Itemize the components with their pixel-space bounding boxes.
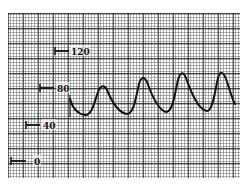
- grid-paper: [8, 13, 240, 178]
- scale-label-120: 120: [71, 47, 90, 57]
- scale-label-40: 40: [43, 121, 56, 131]
- pressure-chart: 120 80 40 0: [0, 0, 243, 184]
- scale-label-80: 80: [57, 84, 70, 94]
- scale-label-0: 0: [34, 157, 40, 167]
